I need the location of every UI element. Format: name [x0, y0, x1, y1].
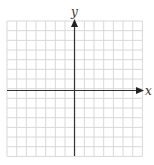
y-axis-label: y: [70, 5, 78, 19]
coordinate-plane: x y: [0, 0, 154, 165]
y-axis-arrow-icon: [71, 19, 78, 27]
x-axis-label: x: [145, 84, 152, 98]
